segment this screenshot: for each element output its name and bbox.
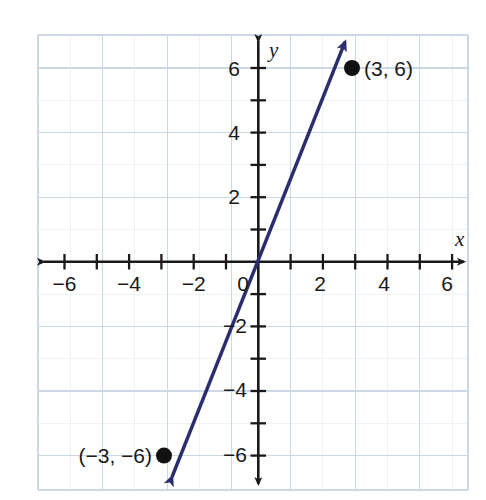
coordinate-plane-figure: −6 −4 −2 0 2 4 6 6 4 2 −2 −4 −6 y x (3, … bbox=[0, 0, 486, 500]
x-tick-label-neg2: −2 bbox=[182, 272, 206, 295]
graph-canvas: −6 −4 −2 0 2 4 6 6 4 2 −2 −4 −6 y x (3, … bbox=[0, 0, 486, 500]
y-tick-label-neg2: −2 bbox=[223, 314, 247, 337]
point-label-lower-left: (−3, −6) bbox=[78, 444, 152, 467]
y-tick-label-pos4: 4 bbox=[228, 121, 240, 144]
y-tick-label-pos6: 6 bbox=[228, 57, 240, 80]
point-label-upper-right: (3, 6) bbox=[364, 57, 413, 80]
y-axis-name: y bbox=[267, 38, 279, 62]
x-tick-label-pos6: 6 bbox=[441, 272, 453, 295]
y-tick-label-neg4: −4 bbox=[223, 378, 247, 401]
y-tick-label-neg6: −6 bbox=[223, 443, 247, 466]
x-tick-label-pos4: 4 bbox=[378, 272, 390, 295]
x-tick-label-zero: 0 bbox=[237, 272, 249, 295]
data-point-neg3-neg6 bbox=[156, 448, 172, 464]
x-axis-name: x bbox=[454, 227, 465, 251]
data-point-3-6 bbox=[344, 60, 360, 76]
x-tick-label-neg6: −6 bbox=[53, 272, 77, 295]
x-tick-label-pos2: 2 bbox=[314, 272, 326, 295]
y-tick-label-pos2: 2 bbox=[228, 185, 240, 208]
x-tick-label-neg4: −4 bbox=[117, 272, 141, 295]
